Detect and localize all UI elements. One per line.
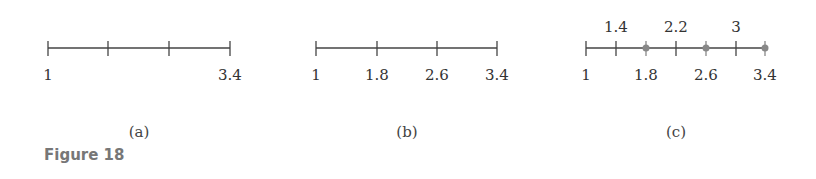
tick-label: 1.8 (634, 66, 658, 84)
panel-caption: (c) (666, 123, 686, 141)
point-dot (762, 45, 769, 52)
point-dot (703, 45, 710, 52)
panel-caption: (a) (129, 123, 150, 141)
point-dot (643, 45, 650, 52)
tick-label: 3.4 (485, 66, 509, 84)
tick-label-above: 2.2 (664, 18, 688, 36)
number-line-b: 1 1.8 2.6 3.4 (b) (311, 41, 509, 141)
tick-label: 1 (311, 66, 321, 84)
number-line-c: 1.4 2.2 3 1 1.8 2.6 3.4 (c) (581, 18, 777, 141)
tick-label: 2.6 (694, 66, 718, 84)
tick-label: 1 (581, 66, 591, 84)
tick-label-above: 1.4 (604, 18, 628, 36)
tick-label: 1.8 (365, 66, 389, 84)
panel-caption: (b) (396, 123, 417, 141)
tick-label: 1 (43, 66, 53, 84)
tick-label: 3.4 (753, 66, 777, 84)
figure-label: Figure 18 (44, 146, 124, 164)
tick-label-above: 3 (731, 18, 741, 36)
number-line-a: 1 3.4 (a) (43, 41, 242, 141)
tick-label: 2.6 (425, 66, 449, 84)
tick-label: 3.4 (218, 66, 242, 84)
